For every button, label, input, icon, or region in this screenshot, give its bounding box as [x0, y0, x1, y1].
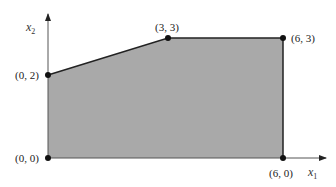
vertex-0-0 — [45, 155, 51, 161]
vertex-label-3-3: (3, 3) — [155, 21, 179, 34]
vertex-6-0 — [280, 155, 286, 161]
vertex-label-6-0: (6, 0) — [269, 167, 293, 180]
vertex-3-3 — [165, 35, 171, 41]
x-axis-label: x1 — [307, 165, 317, 181]
feasible-region — [48, 38, 283, 158]
vertex-label-6-3: (6, 3) — [291, 32, 315, 45]
feasible-region-diagram: x2 x1 (0, 0) (0, 2) (3, 3) (6, 3) (6, 0) — [0, 0, 336, 187]
vertex-label-0-0: (0, 0) — [15, 152, 39, 165]
y-axis-label: x2 — [25, 20, 35, 36]
vertex-label-0-2: (0, 2) — [15, 69, 39, 82]
vertex-0-2 — [45, 72, 51, 78]
vertex-6-3 — [280, 35, 286, 41]
